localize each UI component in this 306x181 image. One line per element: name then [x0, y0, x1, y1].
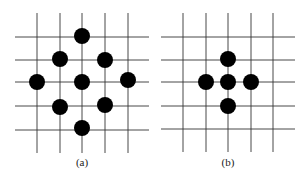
- stencil-point: [120, 72, 136, 88]
- panel-b-label: (b): [208, 156, 248, 168]
- panel-a-grid: [15, 13, 149, 153]
- stencil-point: [52, 51, 68, 67]
- stencil-point: [97, 52, 113, 68]
- stencil-point: [198, 74, 214, 90]
- stencil-point: [220, 74, 236, 90]
- stencil-point: [243, 74, 259, 90]
- panel-a-label: (a): [62, 156, 102, 168]
- stencil-point: [97, 97, 113, 113]
- stencil-point: [220, 98, 236, 114]
- stencil-point: [74, 28, 90, 44]
- stencil-point: [29, 74, 45, 90]
- stencil-diagram: [0, 0, 306, 181]
- stencil-point: [74, 120, 90, 136]
- stencil-point: [220, 51, 236, 67]
- stencil-point: [52, 99, 68, 115]
- stencil-point: [74, 74, 90, 90]
- panel-b-grid: [161, 13, 295, 152]
